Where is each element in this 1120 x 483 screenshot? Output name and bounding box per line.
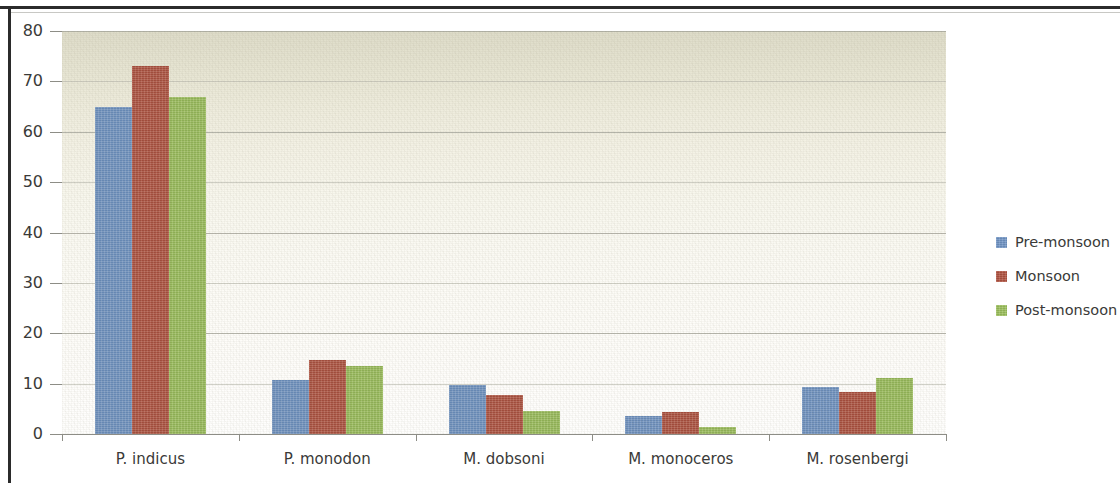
bar-grain [523,411,560,434]
bar-grain [309,360,346,434]
x-axis-label: P. indicus [60,450,240,468]
page-frame-top-rule [0,6,1120,9]
bar-grain [95,107,132,434]
y-axis-label-30: 30 [11,273,43,292]
y-axis-label-40: 40 [11,223,43,242]
bar [625,416,662,434]
x-axis-line [62,434,946,435]
legend-swatch-grain [996,237,1007,248]
bar [486,395,523,434]
y-tick-30 [50,283,62,284]
x-axis-label: M. rosenbergi [768,450,948,468]
legend-item: Post-monsoon [996,293,1120,327]
scanned-figure-page: 01020304050607080 P. indicusP. monodonM.… [0,0,1120,483]
bar [839,392,876,434]
bar-grain [876,378,913,434]
bar [662,412,699,434]
x-tick [946,434,947,441]
x-tick [62,434,63,441]
bar [802,387,839,434]
y-tick-40 [50,233,62,234]
y-tick-10 [50,384,62,385]
bar [132,66,169,434]
bar [449,385,486,434]
x-axis-label: M. monoceros [591,450,771,468]
x-tick [239,434,240,441]
bar-grain [272,380,309,434]
y-tick-20 [50,333,62,334]
legend-label: Monsoon [1015,268,1080,284]
y-axis-label-0: 0 [11,424,43,443]
bar [272,380,309,434]
gridline-70 [62,81,946,82]
y-axis-label-60: 60 [11,122,43,141]
legend-swatch-grain [996,305,1007,316]
y-axis-label-10: 10 [11,374,43,393]
bar [346,366,383,434]
bar-grain [486,395,523,434]
y-axis-label-20: 20 [11,323,43,342]
legend-label: Pre-monsoon [1015,234,1110,250]
legend: Pre-monsoonMonsoonPost-monsoon [996,225,1120,327]
bar [169,97,206,435]
bar [309,360,346,434]
bar-grain [625,416,662,434]
bar-grain [802,387,839,434]
x-axis-label: M. dobsoni [414,450,594,468]
bar [95,107,132,434]
x-axis-left-stub [51,434,62,435]
x-axis-label: P. monodon [237,450,417,468]
bar [876,378,913,434]
bar-grain [132,66,169,434]
y-axis-label-70: 70 [11,71,43,90]
plot-area [62,31,946,434]
y-axis-label-50: 50 [11,172,43,191]
bar-grain [449,385,486,434]
x-tick [416,434,417,441]
legend-swatch-icon [996,305,1007,316]
legend-swatch-icon [996,237,1007,248]
y-tick-80 [50,31,62,32]
y-tick-70 [50,81,62,82]
x-tick [592,434,593,441]
bar-grain [839,392,876,434]
legend-label: Post-monsoon [1015,302,1117,318]
legend-swatch-icon [996,271,1007,282]
legend-item: Monsoon [996,259,1120,293]
y-tick-50 [50,182,62,183]
y-tick-60 [50,132,62,133]
bar-grain [346,366,383,434]
legend-item: Pre-monsoon [996,225,1120,259]
gridline-80 [62,31,946,32]
legend-swatch-grain [996,271,1007,282]
bar-grain [662,412,699,434]
x-tick [769,434,770,441]
bar-grain [169,97,206,435]
y-axis-label-80: 80 [11,21,43,40]
bar [523,411,560,434]
bar-chart: 01020304050607080 P. indicusP. monodonM.… [11,13,1120,483]
